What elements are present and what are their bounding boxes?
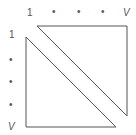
top-label-dot-3: •: [101, 6, 105, 17]
upper-triangle: [37, 26, 127, 116]
top-label-dot-2: •: [77, 6, 81, 17]
left-label-dot-1: •: [9, 54, 13, 65]
top-label-v: V: [123, 7, 131, 18]
top-label-1: 1: [27, 7, 33, 18]
lower-triangle: [26, 37, 116, 127]
matrix-triangle-diagram: 1 • • • V 1 • • • V: [0, 0, 136, 135]
left-label-1: 1: [9, 29, 15, 40]
top-label-dot-1: •: [52, 6, 56, 17]
left-label-v: V: [8, 121, 16, 132]
left-label-dot-2: •: [9, 76, 13, 87]
left-label-dot-3: •: [9, 99, 13, 110]
